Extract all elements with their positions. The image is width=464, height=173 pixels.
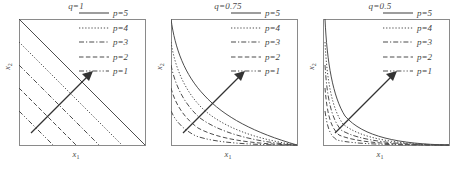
legend-label-p3: p=3 (113, 37, 128, 47)
legend-item: p=2 (78, 50, 148, 65)
legend-item: p=3 (382, 35, 452, 50)
legend-line-p1 (230, 66, 262, 76)
legend-item: p=1 (382, 64, 452, 79)
legend-label-p3: p=3 (265, 37, 280, 47)
legend-label-p2: p=2 (265, 52, 280, 62)
x-axis-label: x1 (304, 149, 456, 159)
panel-q-05: q=0.5 x2 x1 p=5 (304, 0, 456, 160)
figure-lp-q-contours: q=1 x2 x1 p=5 (0, 0, 464, 173)
legend-label-p4: p=4 (417, 23, 432, 33)
legend-label-p1: p=1 (265, 66, 280, 76)
y-axis-label: x2 (306, 63, 316, 70)
legend-line-p4 (78, 23, 110, 33)
legend-line-p2 (230, 52, 262, 62)
legend-line-p4 (382, 23, 414, 33)
legend-label-p1: p=1 (113, 66, 128, 76)
legend-label-p5: p=5 (113, 8, 128, 18)
x-axis-label: x1 (0, 149, 152, 159)
legend-label-p5: p=5 (265, 8, 280, 18)
y-axis-label: x2 (2, 63, 12, 70)
legend-item: p=5 (78, 6, 148, 21)
legend-line-p3 (230, 37, 262, 47)
legend-label-p2: p=2 (113, 52, 128, 62)
legend-line-p1 (78, 66, 110, 76)
legend: p=5 p=4 p=3 p=2 p=1 (382, 6, 452, 79)
legend: p=5 p=4 p=3 p=2 p=1 (230, 6, 300, 79)
legend-label-p4: p=4 (265, 23, 280, 33)
legend-item: p=2 (230, 50, 300, 65)
legend: p=5 p=4 p=3 p=2 p=1 (78, 6, 148, 79)
legend-line-p2 (78, 52, 110, 62)
legend-line-p2 (382, 52, 414, 62)
legend-item: p=3 (230, 35, 300, 50)
legend-line-p5 (382, 8, 414, 18)
panel-q-075: q=0.75 x2 x1 p=5 (152, 0, 304, 160)
legend-line-p5 (78, 8, 110, 18)
legend-item: p=3 (78, 35, 148, 50)
legend-line-p4 (230, 23, 262, 33)
legend-item: p=5 (230, 6, 300, 21)
legend-label-p2: p=2 (417, 52, 432, 62)
legend-label-p1: p=1 (417, 66, 432, 76)
legend-item: p=2 (382, 50, 452, 65)
y-axis-label: x2 (154, 63, 164, 70)
legend-line-p1 (382, 66, 414, 76)
legend-label-p5: p=5 (417, 8, 432, 18)
legend-item: p=1 (230, 64, 300, 79)
legend-item: p=4 (230, 21, 300, 36)
panel-q-1: q=1 x2 x1 p=5 (0, 0, 152, 160)
legend-item: p=1 (78, 64, 148, 79)
legend-line-p3 (78, 37, 110, 47)
legend-line-p5 (230, 8, 262, 18)
legend-item: p=4 (78, 21, 148, 36)
legend-label-p4: p=4 (113, 23, 128, 33)
x-axis-label: x1 (152, 149, 304, 159)
legend-item: p=5 (382, 6, 452, 21)
legend-label-p3: p=3 (417, 37, 432, 47)
legend-item: p=4 (382, 21, 452, 36)
legend-line-p3 (382, 37, 414, 47)
